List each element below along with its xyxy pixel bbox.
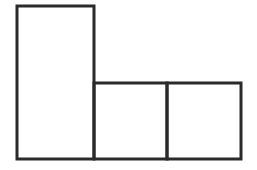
tall-rectangle	[17, 6, 94, 159]
rectangle-composition-diagram	[0, 0, 257, 170]
middle-square	[94, 83, 167, 159]
right-square	[167, 83, 241, 159]
